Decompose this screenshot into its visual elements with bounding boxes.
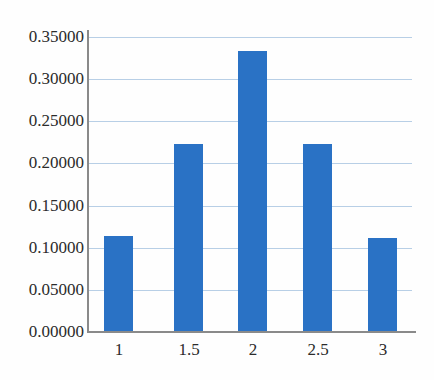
y-axis-tick-label: 0.00000 (0, 322, 84, 342)
y-axis-tick-label: 0.15000 (0, 196, 84, 216)
x-axis-tick-label: 1.5 (178, 340, 199, 360)
plot-area (88, 37, 412, 332)
x-axis-tick-label: 3 (379, 340, 388, 360)
x-axis-spine (87, 331, 416, 333)
bar-category-1 (104, 236, 133, 332)
y-axis-tick-label: 0.10000 (0, 238, 84, 258)
bar-category-2 (238, 51, 267, 332)
gridline (88, 37, 412, 38)
x-axis-tick-label: 1 (115, 340, 124, 360)
x-axis-tick-label: 2.5 (307, 340, 328, 360)
y-axis-tick-label: 0.30000 (0, 69, 84, 89)
y-axis-tick-label: 0.35000 (0, 27, 84, 47)
bar-category-3 (368, 238, 397, 332)
y-axis-tick-label: 0.25000 (0, 111, 84, 131)
bar-category-1.5 (174, 144, 203, 332)
y-axis-tick-label: 0.20000 (0, 153, 84, 173)
bar-category-2.5 (303, 144, 332, 332)
x-axis-tick-label: 2 (249, 340, 258, 360)
y-axis-tick-label: 0.05000 (0, 280, 84, 300)
bar-chart-figure: 0.35000 0.30000 0.25000 0.20000 0.15000 … (0, 0, 434, 380)
y-axis-spine (87, 30, 89, 333)
